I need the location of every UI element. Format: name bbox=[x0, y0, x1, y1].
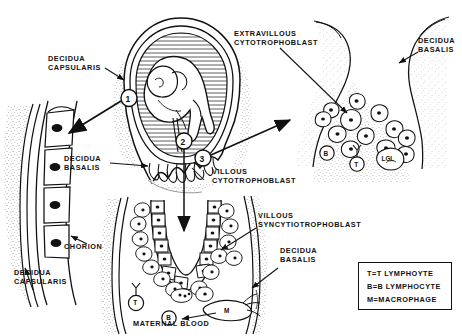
legend-row-b: B=B LYMPHOCYTE bbox=[367, 282, 451, 291]
figure-maternal-fetal-interface: 1 2 3 B T LGL T B M DECIDUA CAPSULARIS D… bbox=[0, 0, 462, 336]
label-chorion: CHORION bbox=[64, 243, 102, 252]
label-decidua-basalis-topright: DECIDUA BASALIS bbox=[418, 37, 455, 54]
cell-label-t-upper: T bbox=[354, 161, 358, 168]
arrow-callout1-to-chorion bbox=[69, 101, 121, 133]
cell-label-m-macrophage: M bbox=[224, 307, 229, 314]
label-decidua-capsularis-bottom: DECIDUA CAPSULARIS bbox=[14, 269, 67, 286]
label-villous-syncytiotrophoblast: VILLOUS SYNCYTIOTROPHOBLAST bbox=[258, 212, 361, 229]
label-extravillous-cytotrophoblast: EXTRAVILLOUS CYTOTROPHOBLAST bbox=[234, 30, 318, 47]
callout-number-2: 2 bbox=[181, 137, 186, 147]
label-decidua-basalis-center: DECIDUA BASALIS bbox=[64, 155, 101, 172]
label-decidua-capsularis-top: DECIDUA CAPSULARIS bbox=[48, 55, 101, 72]
label-villous-cytotrophoblast: VILLOUS CYTOTROPHOBLAST bbox=[212, 168, 296, 185]
cell-label-b-upper: B bbox=[324, 150, 329, 157]
legend-row-m: M=MACROPHAGE bbox=[367, 295, 451, 304]
callout-number-1: 1 bbox=[126, 94, 131, 104]
cell-label-lgl: LGL bbox=[382, 155, 395, 162]
label-maternal-blood: MATERNAL BLOOD bbox=[133, 320, 209, 329]
callout-number-3: 3 bbox=[200, 154, 205, 164]
label-decidua-basalis-bottomright: DECIDUA BASALIS bbox=[280, 247, 317, 264]
legend-row-t: T=T LYMPHOYTE bbox=[367, 269, 451, 278]
legend-box: T=T LYMPHOYTE B=B LYMPHOCYTE M=MACROPHAG… bbox=[358, 262, 452, 310]
cell-label-t-lower: T bbox=[133, 299, 137, 306]
